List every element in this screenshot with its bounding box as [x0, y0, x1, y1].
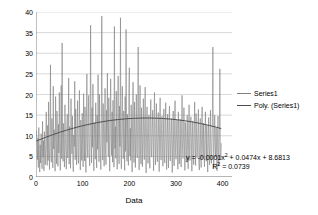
y-tick-label: 0 [29, 174, 33, 181]
legend-item-label: Series1 [254, 90, 278, 97]
chart-legend: Series1Poly. (Series1) [237, 88, 317, 112]
x-axis-title: Data [36, 196, 232, 205]
legend-swatch-icon [237, 93, 251, 94]
y-tick-label: 10 [25, 132, 33, 139]
legend-item[interactable]: Series1 [237, 88, 317, 99]
chart-container: 0510152025303540 0100200300400 Data y = … [0, 0, 318, 215]
y-tick-label: 30 [25, 50, 33, 57]
x-tick-label: 400 [217, 180, 229, 187]
y-tick-label: 40 [25, 9, 33, 16]
y-tick-label: 25 [25, 70, 33, 77]
trendline-equation-text: y = -0.0001x2 + 0.0474x + 8.6813 [186, 154, 290, 163]
y-tick-label: 20 [25, 91, 33, 98]
trendline-rsquared-text: R2 = 0.0739 [186, 163, 290, 172]
legend-item[interactable]: Poly. (Series1) [237, 100, 317, 111]
y-tick-label: 15 [25, 112, 33, 119]
x-tick-label: 300 [170, 180, 182, 187]
x-tick-label: 0 [34, 180, 38, 187]
legend-swatch-icon [237, 105, 251, 106]
plot-svg [36, 12, 232, 177]
y-axis-tick-labels: 0510152025303540 [0, 12, 33, 177]
x-tick-label: 200 [123, 180, 135, 187]
plot-area [36, 12, 232, 177]
legend-item-label: Poly. (Series1) [254, 102, 299, 109]
y-tick-label: 35 [25, 29, 33, 36]
x-axis-tick-labels: 0100200300400 [36, 180, 232, 192]
trendline-equation-annotation: y = -0.0001x2 + 0.0474x + 8.6813 R2 = 0.… [186, 154, 290, 172]
x-tick-label: 100 [77, 180, 89, 187]
y-tick-label: 5 [29, 153, 33, 160]
